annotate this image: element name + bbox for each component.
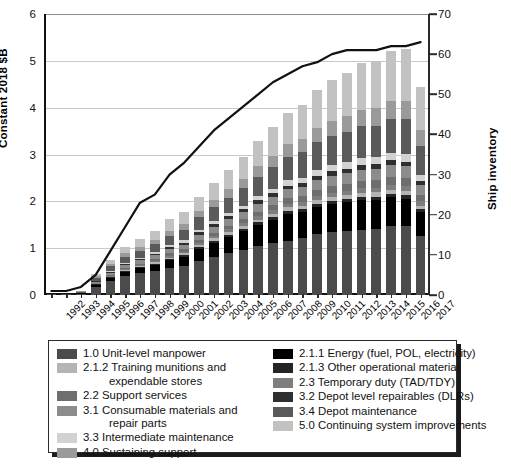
x-tick-mark (110, 294, 111, 298)
x-tick-mark (125, 294, 126, 298)
left-tick-label: 6 (6, 8, 36, 20)
legend-label-tad: 2.3 Temporary duty (TAD/TDY) (299, 376, 455, 389)
x-tick-mark (170, 294, 171, 298)
x-tick-mark (302, 294, 303, 298)
right-tick-label: 20 (438, 209, 472, 221)
x-tick-mark (376, 294, 377, 298)
legend-item-othermat[interactable]: 2.1.3 Other operational material (273, 361, 505, 374)
legend-swatch-energy (273, 349, 293, 359)
left-tick-label: 3 (6, 149, 36, 161)
ship-inventory-line (44, 14, 428, 295)
x-tick-mark (140, 294, 141, 298)
x-axis-labels: 1992199319941995199619971998199920002001… (44, 298, 428, 342)
legend-column-right: 2.1.1 Energy (fuel, POL, electricity)2.1… (273, 347, 505, 460)
x-tick-mark (421, 294, 422, 298)
legend-swatch-dlr (273, 392, 293, 402)
left-tick-label: 0 (6, 289, 36, 301)
left-tick-label: 1 (6, 242, 36, 254)
legend-label-energy: 2.1.1 Energy (fuel, POL, electricity) (299, 347, 476, 360)
legend-swatch-depotmnt (273, 407, 293, 417)
legend-label-training: 2.1.2 Training munitions andexpendable s… (83, 361, 226, 388)
right-tick-mark (429, 93, 437, 95)
legend-label-sustaining: 4.0 Sustaining support (83, 446, 196, 459)
legend-column-left: 1.0 Unit-level manpower2.1.2 Training mu… (57, 347, 265, 460)
right-tick-mark (429, 174, 437, 176)
x-tick-mark (66, 294, 67, 298)
legend-swatch-intermed (57, 433, 77, 443)
legend-item-support[interactable]: 2.2 Support services (57, 389, 265, 402)
right-axis-spine (428, 14, 430, 295)
x-tick-mark (229, 294, 230, 298)
x-tick-mark (273, 294, 274, 298)
right-tick-mark (429, 254, 437, 256)
legend-swatch-othermat (273, 363, 293, 373)
legend-item-sustaining[interactable]: 4.0 Sustaining support (57, 446, 265, 459)
right-tick-label: 30 (438, 169, 472, 181)
right-tick-mark (429, 53, 437, 55)
legend-item-intermed[interactable]: 3.3 Intermediate maintenance (57, 431, 265, 444)
x-tick-mark (199, 294, 200, 298)
right-tick-label: 0 (438, 289, 472, 301)
x-tick-mark (243, 294, 244, 298)
legend-item-training[interactable]: 2.1.2 Training munitions andexpendable s… (57, 361, 265, 388)
right-tick-label: 70 (438, 8, 472, 20)
left-tick-label: 2 (6, 195, 36, 207)
right-tick-mark (429, 13, 437, 15)
legend-item-depotmnt[interactable]: 3.4 Depot maintenance (273, 405, 505, 418)
legend-label-othermat: 2.1.3 Other operational material (299, 361, 459, 374)
legend-item-continue[interactable]: 5.0 Continuing system improvements (273, 419, 505, 432)
right-tick-mark (429, 214, 437, 216)
legend-swatch-training (57, 363, 77, 373)
x-tick-mark (51, 294, 52, 298)
x-tick-mark (81, 294, 82, 298)
legend-item-dlr[interactable]: 3.2 Depot level repairables (DLRs) (273, 390, 505, 403)
legend-label-manpower: 1.0 Unit-level manpower (83, 347, 206, 360)
right-tick-label: 60 (438, 48, 472, 60)
legend-label-support: 2.2 Support services (83, 389, 187, 402)
right-tick-label: 10 (438, 249, 472, 261)
right-tick-label: 40 (438, 128, 472, 140)
legend-swatch-sustaining (57, 448, 77, 458)
right-tick-label: 50 (438, 88, 472, 100)
right-tick-mark (429, 294, 437, 296)
legend-swatch-tad (273, 378, 293, 388)
ship-inventory-line-svg (44, 14, 428, 295)
chart-figure: Constant 2018 $B Ship inventory 0123456 … (0, 0, 511, 464)
x-tick-mark (96, 294, 97, 298)
x-tick-mark (317, 294, 318, 298)
x-tick-mark (258, 294, 259, 298)
chart-legend: 1.0 Unit-level manpower2.1.2 Training mu… (48, 340, 457, 453)
legend-label-cont-training: expendable stores (83, 375, 226, 388)
left-tick-label: 5 (6, 55, 36, 67)
x-tick-mark (362, 294, 363, 298)
legend-swatch-continue (273, 421, 293, 431)
legend-item-consumable[interactable]: 3.1 Consumable materials andrepair parts (57, 404, 265, 431)
x-tick-mark (214, 294, 215, 298)
left-tick-label: 4 (6, 102, 36, 114)
x-tick-mark (391, 294, 392, 298)
legend-item-tad[interactable]: 2.3 Temporary duty (TAD/TDY) (273, 376, 505, 389)
legend-label-consumable: 3.1 Consumable materials andrepair parts (83, 404, 238, 431)
x-tick-mark (288, 294, 289, 298)
x-tick-mark (347, 294, 348, 298)
legend-item-manpower[interactable]: 1.0 Unit-level manpower (57, 347, 265, 360)
x-tick-mark (184, 294, 185, 298)
right-tick-mark (429, 134, 437, 136)
legend-label-intermed: 3.3 Intermediate maintenance (83, 431, 234, 444)
x-tick-mark (155, 294, 156, 298)
legend-swatch-support (57, 391, 77, 401)
legend-label-cont-consumable: repair parts (83, 417, 238, 430)
legend-item-energy[interactable]: 2.1.1 Energy (fuel, POL, electricity) (273, 347, 505, 360)
legend-swatch-consumable (57, 406, 77, 416)
x-tick-mark (332, 294, 333, 298)
right-axis-title: Ship inventory (486, 127, 498, 210)
legend-label-continue: 5.0 Continuing system improvements (299, 419, 486, 432)
legend-swatch-manpower (57, 349, 77, 359)
legend-label-depotmnt: 3.4 Depot maintenance (299, 405, 417, 418)
x-tick-mark (406, 294, 407, 298)
legend-label-dlr: 3.2 Depot level repairables (DLRs) (299, 390, 474, 403)
